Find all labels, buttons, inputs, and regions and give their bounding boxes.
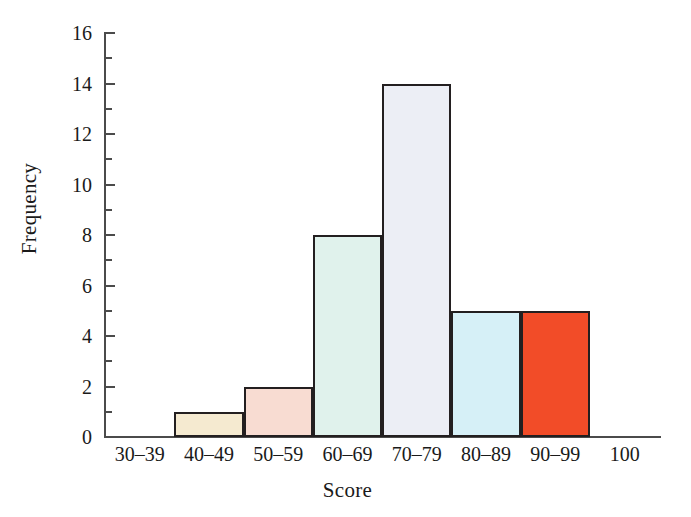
y-tick-label: 0 [52, 427, 92, 447]
y-tick-label: 12 [52, 124, 92, 144]
bar-90-99 [521, 311, 590, 437]
x-tick-label: 80–89 [451, 444, 520, 464]
bar-50-59 [244, 387, 313, 438]
y-tick-label: 16 [52, 23, 92, 43]
y-tick-label: 2 [52, 377, 92, 397]
bar-70-79 [382, 84, 451, 438]
y-tick-label: 14 [52, 74, 92, 94]
bar-60-69 [313, 235, 382, 437]
y-axis-title: Frequency [17, 139, 42, 279]
bar-80-89 [451, 311, 520, 437]
y-tick-label: 10 [52, 175, 92, 195]
x-tick-label: 60–69 [313, 444, 382, 464]
x-tick-label: 30–39 [105, 444, 174, 464]
x-tick-label: 40–49 [174, 444, 243, 464]
y-tick-label: 4 [52, 326, 92, 346]
x-tick-label: 90–99 [521, 444, 590, 464]
bar-40-49 [174, 412, 243, 437]
x-tick-label: 50–59 [244, 444, 313, 464]
y-tick-label: 6 [52, 276, 92, 296]
y-tick-label: 8 [52, 225, 92, 245]
x-axis-title: Score [105, 478, 590, 503]
x-tick-label: 70–79 [382, 444, 451, 464]
histogram-figure: Frequency 0246810121416 30–3940–4950–596… [0, 0, 691, 517]
x-tick-label: 100 [590, 444, 659, 464]
